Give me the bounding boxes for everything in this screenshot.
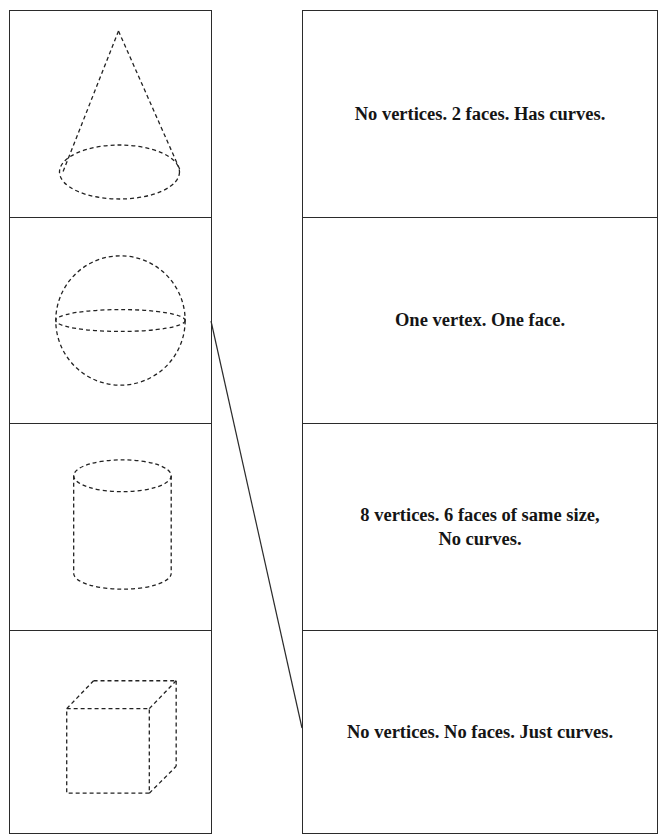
cone-icon [10, 11, 211, 217]
description-line: One vertex. One face. [395, 308, 565, 332]
description-line: No vertices. No faces. Just curves. [347, 720, 613, 744]
cylinder-icon [10, 424, 211, 630]
description-text: 8 vertices. 6 faces of same size, No cur… [350, 503, 609, 551]
shape-cell-cylinder[interactable] [10, 423, 211, 630]
shape-cell-cube[interactable] [10, 630, 211, 833]
shape-cell-sphere[interactable] [10, 217, 211, 423]
description-line: No vertices. 2 faces. Has curves. [355, 102, 606, 126]
description-cell-2[interactable]: One vertex. One face. [303, 217, 657, 423]
description-line: 8 vertices. 6 faces of same size, [360, 503, 599, 527]
descriptions-column: No vertices. 2 faces. Has curves. One ve… [302, 10, 658, 834]
description-cell-4[interactable]: No vertices. No faces. Just curves. [303, 630, 657, 833]
description-text: No vertices. 2 faces. Has curves. [345, 102, 616, 126]
description-text: One vertex. One face. [385, 308, 575, 332]
description-text: No vertices. No faces. Just curves. [337, 720, 623, 744]
shapes-column [9, 10, 212, 834]
shape-cell-cone[interactable] [10, 11, 211, 217]
cube-icon [10, 631, 211, 833]
sphere-icon [10, 218, 211, 423]
description-cell-1[interactable]: No vertices. 2 faces. Has curves. [303, 11, 657, 217]
description-cell-3[interactable]: 8 vertices. 6 faces of same size, No cur… [303, 423, 657, 630]
description-line: No curves. [360, 527, 599, 551]
